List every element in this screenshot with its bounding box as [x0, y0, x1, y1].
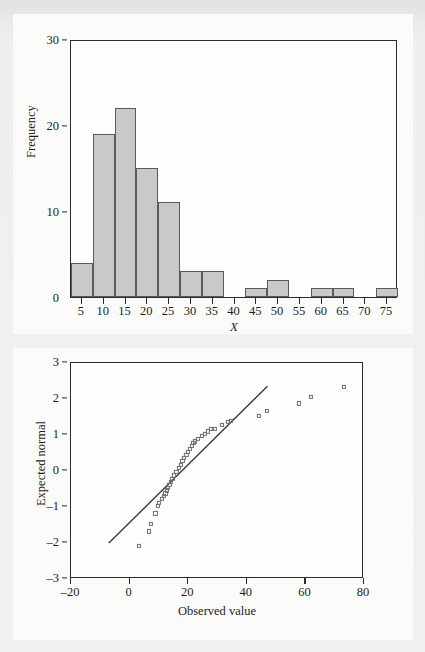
qq-x-tick-mark [246, 578, 247, 584]
qq-x-tick-label: 0 [125, 586, 131, 599]
scanned-page-background: Frequency 0102030 5101520253035404550556… [0, 0, 425, 652]
qq-data-point [309, 395, 313, 399]
qq-y-tick-mark [62, 541, 67, 542]
qq-data-point [342, 385, 346, 389]
histogram-x-tick-label: 50 [271, 305, 284, 318]
histogram-x-tick-label: 35 [205, 305, 218, 318]
qq-data-point [157, 501, 161, 505]
histogram-bar [180, 271, 202, 297]
histogram-bar [115, 108, 137, 297]
qq-y-tick-mark [62, 577, 67, 578]
histogram-plot-area [70, 40, 397, 298]
qq-y-tick-mark [62, 433, 67, 434]
qq-data-point [213, 426, 217, 430]
histogram-x-tick-label: 20 [140, 305, 153, 318]
qq-data-point [256, 414, 260, 418]
qq-x-tick-label: 40 [240, 586, 253, 599]
qq-x-tick-label: 20 [181, 586, 194, 599]
histogram-bar [71, 263, 93, 297]
qq-data-point [147, 529, 151, 533]
qq-data-point [170, 477, 174, 481]
histogram-x-tick-label: 75 [380, 305, 393, 318]
qq-y-tick-mark [62, 505, 67, 506]
histogram-y-tick-mark [62, 211, 67, 212]
qq-plot-area [70, 362, 363, 578]
qq-y-tick-label: –3 [47, 572, 60, 585]
qq-data-point [265, 409, 269, 413]
qq-data-point [172, 473, 176, 477]
histogram-x-tick-label: 65 [336, 305, 349, 318]
histogram-figure: Frequency 0102030 5101520253035404550556… [13, 14, 413, 334]
qq-x-tick-mark [70, 578, 71, 584]
qq-y-tick-label: –1 [47, 500, 60, 513]
qq-x-tick-mark [363, 578, 364, 584]
qq-data-point [297, 401, 301, 405]
qq-y-tick-label: 3 [53, 356, 59, 369]
qq-data-point [229, 419, 233, 423]
qq-plot-figure: Expected normal –3–2–10123 –20020406080 … [13, 348, 413, 640]
histogram-y-tick-mark [62, 125, 67, 126]
qq-y-tick-label: –2 [47, 536, 60, 549]
histogram-x-tick-label: 15 [118, 305, 131, 318]
qq-data-point [177, 466, 181, 470]
histogram-x-tick-label: 5 [78, 305, 84, 318]
histogram-bar [311, 288, 333, 297]
qq-data-point [156, 504, 160, 508]
qq-y-tick-label: 1 [53, 428, 59, 441]
histogram-bar [333, 288, 355, 297]
histogram-y-tick-label: 30 [47, 34, 60, 47]
qq-x-tick-mark [304, 578, 305, 584]
histogram-x-tick-label: 60 [314, 305, 327, 318]
qq-x-tick-labels: –20020406080 [70, 586, 364, 602]
qq-y-tick-mark [62, 397, 67, 398]
histogram-bar [245, 288, 267, 297]
qq-data-point [149, 522, 153, 526]
qq-x-tick-label: 80 [357, 586, 370, 599]
histogram-x-tick-label: 40 [227, 305, 240, 318]
histogram-bar [376, 288, 398, 297]
histogram-x-tick-label: 10 [96, 305, 109, 318]
histogram-bar [136, 168, 158, 297]
histogram-y-tick-mark [62, 39, 67, 40]
histogram-bar [93, 134, 115, 297]
histogram-x-tick-label: 30 [184, 305, 197, 318]
histogram-y-tick-label: 0 [53, 292, 59, 305]
qq-y-axis-ticks: –3–2–10123 [27, 354, 67, 582]
qq-data-point [137, 544, 141, 548]
histogram-bar [267, 280, 289, 297]
qq-data-point [174, 470, 178, 474]
histogram-x-tick-label: 70 [358, 305, 371, 318]
histogram-bar [202, 271, 224, 297]
histogram-x-tick-label: 25 [162, 305, 175, 318]
qq-x-tick-mark [187, 578, 188, 584]
qq-y-tick-label: 2 [53, 392, 59, 405]
qq-reference-line [71, 363, 362, 577]
qq-y-tick-mark [62, 469, 67, 470]
histogram-x-tick-label: 45 [249, 305, 262, 318]
qq-y-tick-mark [62, 361, 67, 362]
qq-x-tick-label: –20 [61, 586, 80, 599]
qq-x-axis-label: Observed value [70, 604, 364, 619]
qq-data-point [153, 511, 157, 515]
histogram-x-tick-label: 55 [293, 305, 306, 318]
qq-data-point [220, 423, 224, 427]
qq-x-tick-mark [129, 578, 130, 584]
histogram-bar [158, 202, 180, 297]
histogram-y-tick-label: 20 [47, 120, 60, 133]
histogram-x-axis-label: X [70, 319, 398, 335]
histogram-y-tick-label: 10 [47, 206, 60, 219]
histogram-y-axis-ticks: 0102030 [27, 32, 67, 306]
qq-x-tick-marks [70, 578, 364, 586]
qq-y-tick-label: 0 [53, 464, 59, 477]
qq-x-tick-label: 60 [298, 586, 311, 599]
